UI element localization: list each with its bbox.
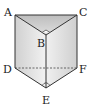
label-B: B: [37, 37, 45, 50]
prism-diagram: A C B D F E: [0, 0, 97, 108]
label-D: D: [3, 63, 12, 76]
label-A: A: [3, 6, 13, 19]
label-C: C: [79, 6, 87, 19]
label-F: F: [79, 63, 87, 76]
label-E: E: [42, 94, 50, 107]
